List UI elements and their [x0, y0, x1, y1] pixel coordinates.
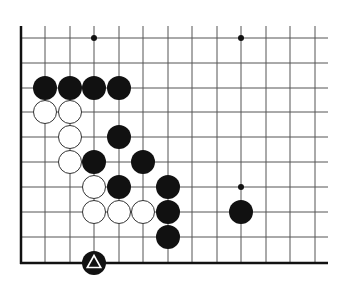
- black-stone: [156, 175, 180, 199]
- star-point-icon: [238, 184, 244, 190]
- white-stone: [83, 176, 106, 199]
- black-stone: [156, 200, 180, 224]
- black-stone: [156, 225, 180, 249]
- white-stone: [59, 101, 82, 124]
- black-stone: [82, 150, 106, 174]
- black-stone: [107, 76, 131, 100]
- white-stone: [34, 101, 57, 124]
- white-stone: [83, 201, 106, 224]
- black-stone: [58, 76, 82, 100]
- black-stone: [82, 76, 106, 100]
- go-board: [0, 0, 346, 291]
- white-stone: [59, 126, 82, 149]
- white-stone: [108, 201, 131, 224]
- black-stone: [107, 125, 131, 149]
- white-stone: [132, 201, 155, 224]
- star-point-icon: [238, 35, 244, 41]
- black-stone: [229, 200, 253, 224]
- black-stone: [33, 76, 57, 100]
- star-point-icon: [91, 35, 97, 41]
- black-stone: [107, 175, 131, 199]
- white-stone: [59, 151, 82, 174]
- black-stone: [131, 150, 155, 174]
